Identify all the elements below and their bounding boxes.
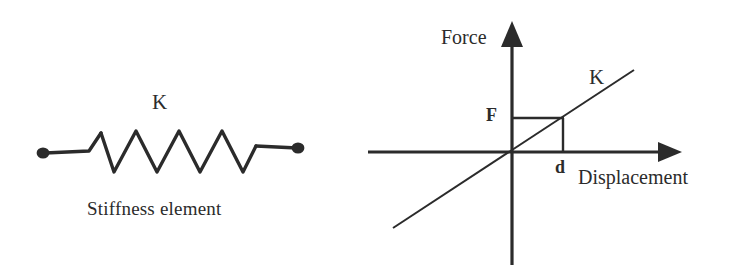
terminal-dot-icon-left (37, 147, 50, 158)
figure-drawing (0, 0, 730, 279)
force-displacement-graph-group (368, 21, 682, 265)
arrow-up-icon (501, 21, 523, 47)
force-value-label: F (486, 106, 497, 124)
x-axis-label: Displacement (578, 167, 688, 187)
spring-stiffness-label: K (152, 92, 167, 113)
spring-lead-left (45, 133, 101, 153)
terminal-dot-icon-right (292, 142, 305, 153)
slope-label: K (589, 67, 604, 88)
spring-lead-right (256, 146, 297, 148)
spring-caption: Stiffness element (87, 199, 221, 218)
displacement-value-label: d (555, 158, 565, 176)
spring-element-group (37, 131, 305, 172)
y-axis-label: Force (441, 27, 487, 47)
arrow-right-icon (658, 142, 682, 162)
figure-container: K Stiffness element Force Displacement K… (0, 0, 730, 279)
zigzag-spring-icon (101, 131, 256, 172)
